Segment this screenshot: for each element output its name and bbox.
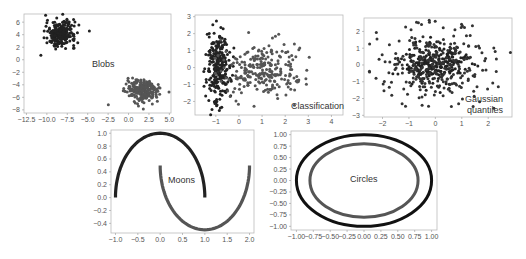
circles-label: Circles (350, 174, 378, 184)
blobs-label: Blobs (92, 59, 115, 69)
y-tick-label: 0.8 (97, 143, 107, 150)
y-tick-label: −2 (183, 98, 191, 105)
y-tick-label: −0.50 (269, 200, 287, 207)
gaussian-label-line2: quantiles (467, 105, 503, 115)
y-tick-label: 4 (16, 31, 20, 38)
upper-moon-curve (116, 133, 205, 197)
blobs-plot: −12.5−10.0−7.5−5.0−2.50.02.55.06420−2−4−… (0, 0, 180, 125)
x-tick-label: −5.0 (81, 116, 95, 123)
y-tick-label: −1 (183, 81, 191, 88)
circles-plot: −1.00−0.75−0.50−0.250.000.250.500.751.00… (260, 125, 450, 245)
y-tick-label: −2 (352, 95, 360, 102)
x-tick-label: 1.5 (222, 236, 232, 243)
moons-chart: −1.0−0.50.00.51.01.52.01.00.80.60.40.20.… (80, 125, 265, 245)
y-tick-label: −2 (12, 69, 20, 76)
y-tick-label: −3 (352, 112, 360, 119)
y-tick-label: 3 (187, 13, 191, 20)
x-tick-label: −2.5 (101, 116, 115, 123)
x-tick-label: 4 (329, 118, 333, 125)
y-tick-label: −0.4 (93, 220, 107, 227)
x-tick-label: 1.0 (200, 236, 210, 243)
x-tick-label: 2 (486, 120, 490, 127)
x-tick-label: 3 (306, 118, 310, 125)
blobs-chart: −12.5−10.0−7.5−5.0−2.50.02.55.06420−2−4−… (0, 0, 180, 125)
x-tick-label: 0.0 (124, 116, 134, 123)
y-tick-label: 2 (356, 28, 360, 35)
gaussian-quantiles-plot: −2−1012210−1−2−3 Gaussian quantiles (350, 0, 526, 125)
x-tick-label: 0.0 (155, 236, 165, 243)
moons-plot: −1.0−0.50.00.51.01.52.01.00.80.60.40.20.… (80, 125, 265, 245)
x-tick-label: −1.00 (288, 233, 306, 240)
x-tick-label: 2 (283, 118, 287, 125)
x-tick-label: −1 (212, 118, 220, 125)
classification-plot: −1012343210−1−2 Classification (180, 0, 355, 125)
y-tick-label: −0.2 (93, 207, 107, 214)
y-tick-label: 0 (187, 64, 191, 71)
y-tick-label: −6 (12, 94, 20, 101)
x-tick-label: −0.75 (304, 233, 322, 240)
y-tick-label: −0.25 (269, 188, 287, 195)
x-tick-label: 2.5 (144, 116, 154, 123)
x-tick-label: 2.0 (245, 236, 255, 243)
y-tick-label: −1.00 (269, 223, 287, 230)
x-tick-label: 0.00 (357, 233, 371, 240)
y-tick-label: −1 (352, 78, 360, 85)
x-tick-label: −0.25 (338, 233, 356, 240)
circles-chart: −1.00−0.75−0.50−0.250.000.250.500.751.00… (260, 125, 450, 245)
x-tick-label: −12.5 (18, 116, 36, 123)
y-tick-label: −0.75 (269, 211, 287, 218)
x-tick-label: −1.0 (109, 236, 123, 243)
y-tick-label: −8 (12, 106, 20, 113)
gaussian-label-line1: Gaussian (465, 94, 503, 104)
x-tick-label: 1 (460, 120, 464, 127)
y-tick-label: 1 (356, 45, 360, 52)
y-tick-label: 0.4 (97, 168, 107, 175)
x-tick-label: 0.50 (391, 233, 405, 240)
y-tick-label: 0 (356, 61, 360, 68)
x-tick-label: −0.5 (131, 236, 145, 243)
y-tick-label: 0.50 (273, 154, 287, 161)
x-tick-label: 0.25 (374, 233, 388, 240)
y-tick-label: 1.0 (97, 130, 107, 137)
y-tick-label: 0.25 (273, 166, 287, 173)
y-tick-label: 2 (187, 30, 191, 37)
x-tick-label: −7.5 (60, 116, 74, 123)
x-tick-label: 0.75 (408, 233, 422, 240)
x-tick-label: −10.0 (38, 116, 56, 123)
x-tick-label: −0.50 (321, 233, 339, 240)
y-tick-label: 0.00 (273, 177, 287, 184)
y-tick-label: 1.00 (273, 131, 287, 138)
y-tick-label: 0.0 (97, 194, 107, 201)
y-tick-label: 2 (16, 44, 20, 51)
x-tick-label: 1.00 (425, 233, 439, 240)
moons-label: Moons (168, 175, 195, 185)
x-tick-label: 0 (237, 118, 241, 125)
y-tick-label: 0.6 (97, 155, 107, 162)
y-tick-label: 6 (16, 19, 20, 26)
x-tick-label: 0.5 (178, 236, 188, 243)
y-tick-label: −4 (12, 81, 20, 88)
x-tick-label: 5.0 (164, 116, 174, 123)
y-tick-label: 0.75 (273, 143, 287, 150)
y-tick-label: 1 (187, 47, 191, 54)
x-tick-label: 1 (260, 118, 264, 125)
y-tick-label: 0.2 (97, 181, 107, 188)
classification-label: Classification (291, 101, 344, 111)
y-tick-label: 0 (16, 56, 20, 63)
